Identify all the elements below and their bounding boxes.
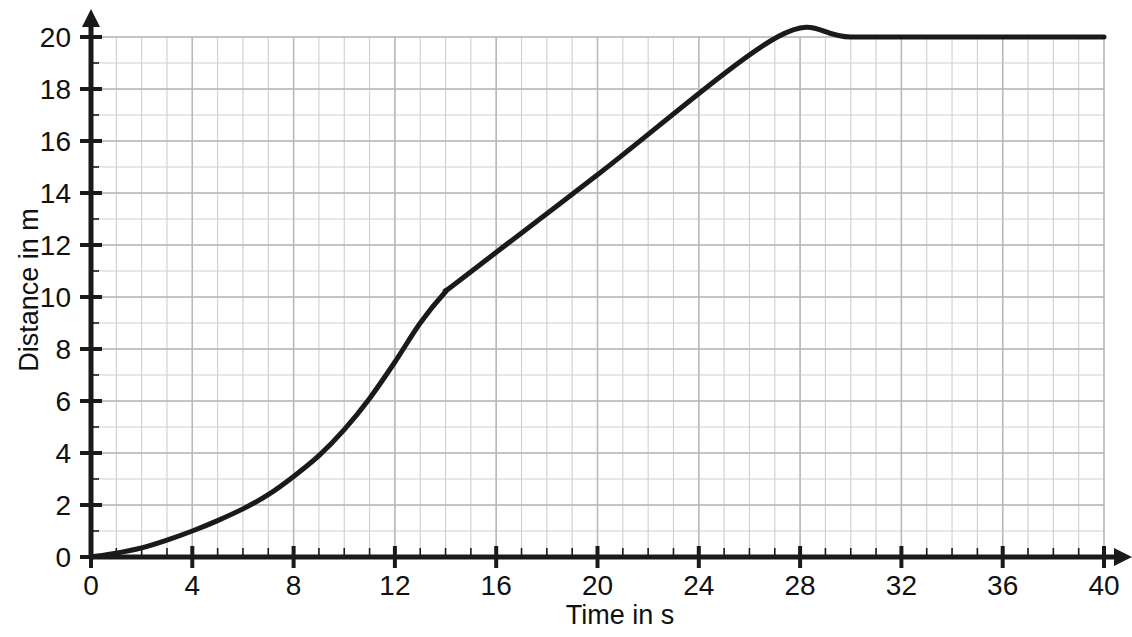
x-tick-label: 36 — [987, 570, 1018, 601]
x-tick-label: 0 — [83, 570, 99, 601]
x-tick-label: 16 — [481, 570, 512, 601]
x-tick-label: 8 — [286, 570, 302, 601]
y-tick-label: 8 — [55, 334, 71, 365]
y-tick-label: 12 — [40, 230, 71, 261]
y-tick-label: 20 — [40, 22, 71, 53]
y-tick-label: 16 — [40, 126, 71, 157]
y-axis-title: Distance in m — [14, 208, 44, 372]
x-tick-label: 40 — [1088, 570, 1119, 601]
x-tick-label: 28 — [785, 570, 816, 601]
x-axis-title: Time in s — [566, 600, 675, 630]
y-tick-label: 4 — [55, 438, 71, 469]
y-tick-label: 18 — [40, 74, 71, 105]
y-tick-label: 0 — [55, 542, 71, 573]
y-tick-label: 2 — [55, 490, 71, 521]
y-tick-label: 6 — [55, 386, 71, 417]
x-tick-label: 32 — [886, 570, 917, 601]
x-tick-label: 4 — [185, 570, 201, 601]
chart-canvas: 02468101214161820 0481216202428323640 Di… — [0, 0, 1132, 637]
x-tick-label: 12 — [379, 570, 410, 601]
x-tick-label: 20 — [582, 570, 613, 601]
y-tick-label: 10 — [40, 282, 71, 313]
x-tick-label: 24 — [683, 570, 714, 601]
distance-time-chart: 02468101214161820 0481216202428323640 Di… — [0, 0, 1132, 637]
y-tick-label: 14 — [40, 178, 71, 209]
